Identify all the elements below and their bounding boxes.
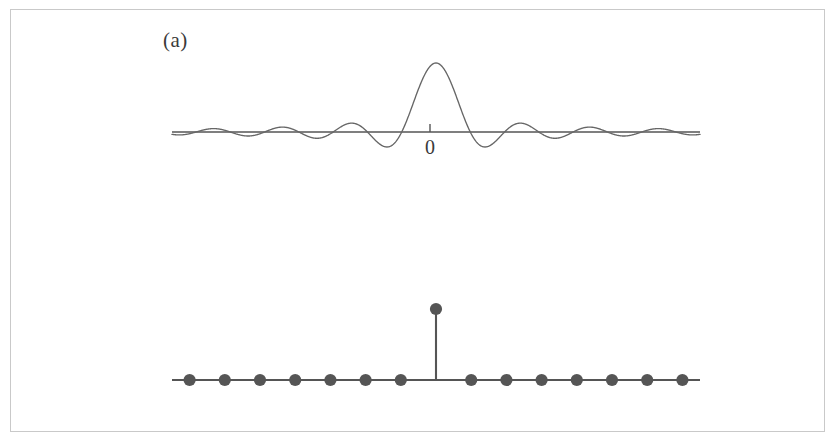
impulse-sample-marker	[536, 374, 548, 386]
panel-a-origin-label: 0	[425, 136, 435, 159]
impulse-sample-marker	[676, 374, 688, 386]
impulse-sample-marker	[219, 374, 231, 386]
impulse-sample-marker	[395, 374, 407, 386]
impulse-sample-marker	[571, 374, 583, 386]
impulse-sample-marker	[606, 374, 618, 386]
sinc-axis-group	[172, 124, 700, 132]
impulse-sample-marker	[500, 374, 512, 386]
impulse-sample-marker	[430, 303, 442, 315]
panel-b-impulse: (b) 0	[0, 210, 837, 443]
impulse-sample-marker	[254, 374, 266, 386]
panel-a-sinc: (a) 0	[0, 0, 837, 210]
impulse-sample-marker	[641, 374, 653, 386]
impulse-sample-marker	[289, 374, 301, 386]
figure-root: (a) 0 (b) 0	[0, 0, 837, 443]
impulse-sample-marker	[465, 374, 477, 386]
sinc-plot	[0, 0, 837, 210]
impulse-sample-marker	[184, 374, 196, 386]
impulse-sample-marker	[360, 374, 372, 386]
impulse-plot	[0, 210, 837, 443]
impulse-sample-marker	[324, 374, 336, 386]
sinc-curve	[172, 63, 700, 147]
